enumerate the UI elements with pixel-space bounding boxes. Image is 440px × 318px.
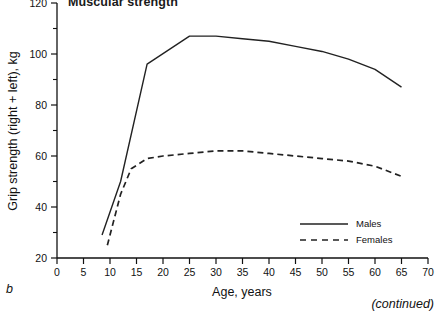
x-tick-label: 65: [396, 266, 408, 278]
x-tick-label: 10: [104, 266, 116, 278]
y-tick-label: 20: [35, 252, 47, 264]
y-tick-label: 80: [35, 99, 47, 111]
y-tick-label: 120: [29, 0, 47, 9]
x-tick-label: 50: [316, 266, 328, 278]
legend: Males Females: [300, 218, 393, 245]
y-axis-ticks: 20406080100120: [29, 0, 57, 264]
series-line-males: [102, 36, 401, 235]
x-tick-label: 40: [263, 266, 275, 278]
figure-panel: Muscular strength 0510152025303540455055…: [0, 0, 440, 318]
x-tick-label: 25: [184, 266, 196, 278]
x-tick-label: 55: [343, 266, 355, 278]
x-axis-title: Age, years: [212, 285, 272, 299]
y-axis-title: Grip strength (right + left), kg: [6, 51, 20, 210]
line-chart: 0510152025303540455055606570 20406080100…: [0, 0, 440, 318]
y-tick-label: 40: [35, 201, 47, 213]
legend-label-females: Females: [356, 234, 393, 245]
continued-note: (continued): [371, 297, 434, 311]
y-tick-label: 60: [35, 150, 47, 162]
legend-label-males: Males: [356, 218, 382, 229]
x-tick-label: 5: [81, 266, 87, 278]
data-series: [102, 36, 401, 245]
x-tick-label: 35: [237, 266, 249, 278]
panel-letter: b: [6, 282, 13, 296]
x-tick-label: 0: [54, 266, 60, 278]
x-tick-label: 70: [422, 266, 434, 278]
x-tick-label: 30: [210, 266, 222, 278]
y-tick-label: 100: [29, 48, 47, 60]
series-line-females: [107, 151, 401, 245]
x-tick-label: 45: [290, 266, 302, 278]
x-tick-label: 60: [369, 266, 381, 278]
x-axis-ticks: 0510152025303540455055606570: [54, 258, 434, 278]
x-tick-label: 20: [157, 266, 169, 278]
x-tick-label: 15: [131, 266, 143, 278]
